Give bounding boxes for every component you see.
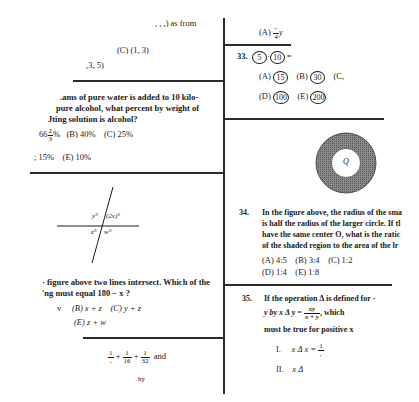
q34-line-3: have the same center O, what is the rati… [262, 230, 400, 241]
lines-choice-c: (C) y + z [110, 303, 141, 313]
lines-question-line-2: 'ng must equal 180 − x ? [42, 288, 130, 299]
circled-number: 5 [252, 51, 267, 64]
q33-choice-d: (D) 100 [259, 91, 289, 101]
q35-line-1: If the operation Δ is defined for · [264, 294, 375, 305]
q32-line-1: .ams of pure water is added to 10 kilo- [60, 92, 198, 103]
rule-right-2 [224, 118, 384, 120]
q32-choice-a: 6623% [39, 129, 60, 139]
angle-label-z: z° [91, 228, 97, 236]
rule-right-3 [224, 284, 392, 286]
q34-line-4: of the shaded region to the area of the … [262, 241, 398, 252]
prev-choice-a: (A) −4y [259, 26, 283, 41]
rule-right-1 [224, 44, 291, 46]
q35-item-2: II. x Δ [276, 364, 303, 375]
q31-stem-tail: , , ,) as from [155, 18, 196, 29]
q33-number: 33. [237, 51, 248, 61]
center-label-q: Q [343, 157, 349, 166]
q35-line-3: must be true for positive x [264, 325, 353, 336]
q33-choices-row1: (A) 15 (B) 30 (C, [259, 71, 344, 84]
q32-choice-b: (B) 40% [66, 129, 95, 139]
q34-line-2: is half the radius of the larger circle.… [262, 219, 400, 230]
q32-choices-row1: 6623% (B) 40% (C) 25% [39, 128, 133, 143]
rule-left-2 [30, 172, 224, 174]
lines-choices-row1: v (B) x + z (C) y + z [57, 303, 141, 314]
q34-choice-e: (E) 1:8 [295, 267, 319, 277]
lines-choice-e: (E) z + w [74, 317, 106, 328]
angle-label-2x: (2x)° [106, 212, 120, 220]
q34-choice-c: (C) 1:2 [328, 255, 352, 265]
q33-choice-a: (A) 15 [259, 71, 288, 81]
q34-choice-a: (A) 4:5 [262, 255, 287, 265]
q34-number: 34. [239, 208, 249, 219]
lines-choice-a-partial: v [57, 303, 61, 313]
q32-choice-e: (E) 10% [63, 152, 92, 162]
q33-choice-c: (C, [333, 71, 344, 81]
q32-line-3: Jting solution is alcohol? [48, 114, 138, 125]
q33-choices-row2: (D) 100 (E) 200 [259, 91, 326, 104]
q32-choice-c: (C) 25% [104, 129, 133, 139]
q33-choice-b: (B) 30 [296, 71, 324, 81]
q33-choice-e: (E) 200 [297, 91, 326, 101]
q34-choices-row1: (A) 4:5 (B) 3:4 (C) 1:2 [262, 255, 352, 266]
sum-expression: 1, + 116 + 132 and [108, 350, 166, 365]
angle-label-y: y° [92, 212, 98, 220]
q35-line-2: y by x Δ y = xyx + y, which [264, 306, 344, 321]
lines-choice-b: (B) x + z [72, 303, 102, 313]
q35-item-1: I. x Δ x = 1, [276, 343, 324, 358]
angle-label-w: w° [104, 228, 111, 236]
q35-number: 35. [242, 294, 252, 305]
q31-choice-c: (C) (1, 3) [117, 45, 149, 56]
q34-line-1: In the figure above, the radius of the s… [262, 208, 402, 219]
sum-tail: hy [138, 374, 145, 385]
q34-choice-b: (B) 3:4 [295, 255, 319, 265]
q32-choice-d: ; 15% [34, 152, 54, 162]
q32-choices-row2: ; 15% (E) 10% [34, 152, 91, 163]
q32-line-2: pure alcohol, what percent by weight of [56, 103, 199, 114]
q34-choice-d: (D) 1:4 [262, 267, 287, 277]
intersecting-lines-figure [50, 183, 150, 267]
rule-left-1 [73, 80, 224, 82]
lines-question-line-1: · figure above two lines intersect. Whic… [42, 277, 210, 288]
q34-choices-row2: (D) 1:4 (E) 1:8 [262, 267, 319, 278]
q33-stem: 33. 5·10 = [237, 51, 292, 64]
q31-choice-partial: ,3, 5) [86, 60, 104, 71]
circled-number: 10 [270, 51, 285, 64]
rule-left-3 [83, 337, 224, 339]
